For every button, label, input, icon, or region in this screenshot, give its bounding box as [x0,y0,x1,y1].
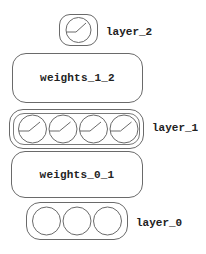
neuron-icon [63,207,91,235]
layer-0-neurons [0,0,206,254]
layer-0-label: layer_0 [136,217,182,229]
neuron-icon [94,207,122,235]
neuron-icon [33,207,61,235]
